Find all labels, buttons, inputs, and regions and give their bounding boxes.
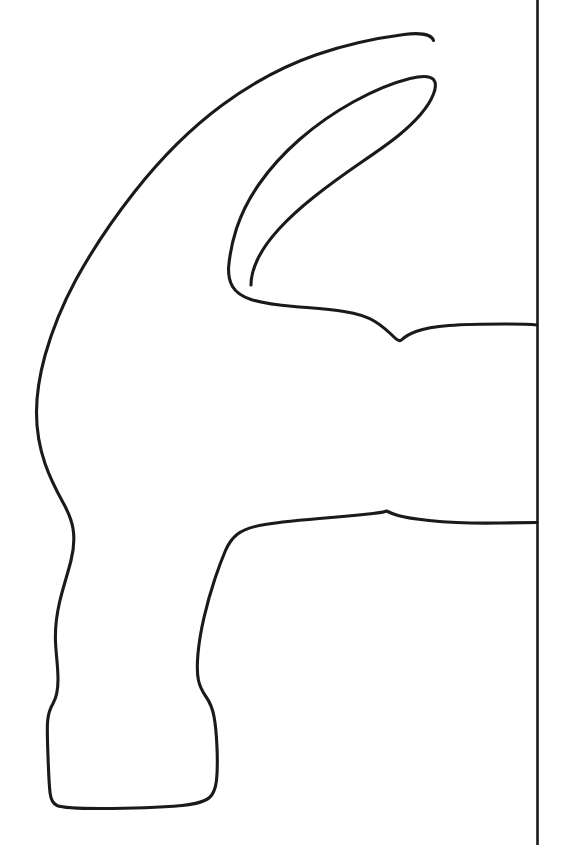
hammer-outline-drawing: [0, 0, 565, 845]
paper-background: [0, 0, 565, 845]
page-canvas: claw-hammer-head Black line-art outline …: [0, 0, 565, 845]
